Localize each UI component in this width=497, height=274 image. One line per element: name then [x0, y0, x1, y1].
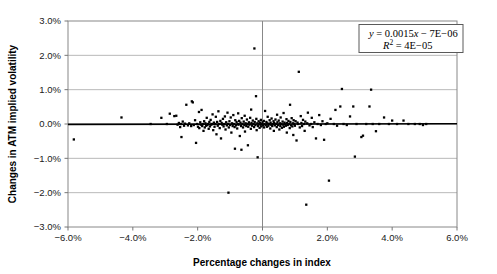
data-point: [354, 155, 356, 157]
data-point: [228, 126, 230, 128]
data-point: [180, 136, 182, 138]
data-point: [313, 121, 315, 123]
data-point: [349, 115, 351, 117]
data-point: [328, 180, 330, 182]
data-point: [211, 113, 213, 115]
data-point: [383, 116, 385, 118]
data-point: [312, 126, 314, 128]
legend-equation-line: y = 0.0015x − 7E−06: [368, 28, 458, 39]
data-point: [212, 129, 214, 131]
y-axis-title: Changes in ATM implied volatility: [7, 44, 18, 203]
data-point: [120, 116, 122, 118]
data-point: [255, 95, 257, 97]
data-point: [402, 119, 404, 121]
data-point: [217, 110, 219, 112]
data-point: [321, 120, 323, 122]
data-point: [236, 127, 238, 129]
data-point: [201, 125, 203, 127]
data-point: [215, 133, 217, 135]
data-point: [198, 111, 200, 113]
data-point: [209, 119, 211, 121]
y-tick-label: 2.0%: [39, 50, 61, 61]
data-point: [239, 135, 241, 137]
data-point: [199, 121, 201, 123]
data-point: [216, 121, 218, 123]
data-point: [305, 204, 307, 206]
data-point: [278, 119, 280, 121]
data-point: [336, 125, 338, 127]
data-point: [292, 134, 294, 136]
trendline: [68, 124, 457, 125]
data-point: [190, 125, 192, 127]
data-point: [339, 105, 341, 107]
data-point: [160, 117, 162, 119]
data-point: [318, 114, 320, 116]
x-tick-label: 6.0%: [446, 232, 468, 243]
data-point: [276, 126, 278, 128]
data-point: [291, 117, 293, 119]
data-point: [303, 130, 305, 132]
data-point: [341, 88, 343, 90]
data-point: [192, 101, 194, 103]
data-point: [246, 118, 248, 120]
data-point: [249, 117, 251, 119]
data-point: [220, 137, 222, 139]
legend-equation-mid: = 0.0015: [374, 28, 414, 39]
data-point: [244, 115, 246, 117]
data-point: [234, 148, 236, 150]
data-point: [299, 126, 301, 128]
data-point: [264, 110, 266, 112]
y-tick-label: 0.0%: [39, 118, 61, 129]
data-point: [247, 126, 249, 128]
data-point: [370, 89, 372, 91]
data-point: [185, 104, 187, 106]
data-point: [263, 126, 265, 128]
data-point: [242, 126, 244, 128]
data-point: [255, 118, 257, 120]
data-point: [278, 128, 280, 130]
x-tick-label: −4.0%: [119, 232, 147, 243]
data-point: [315, 137, 317, 139]
data-point: [289, 127, 291, 129]
data-point: [289, 104, 291, 106]
data-point: [248, 121, 250, 123]
data-point: [198, 127, 200, 129]
data-point: [263, 120, 265, 122]
data-point: [224, 128, 226, 130]
data-point: [222, 125, 224, 127]
data-point: [182, 120, 184, 122]
data-point: [368, 105, 370, 107]
data-point: [334, 109, 336, 111]
data-point: [195, 142, 197, 144]
data-point: [291, 125, 293, 127]
data-point: [208, 121, 210, 123]
legend-equation-tail: − 7E−06: [418, 28, 457, 39]
x-tick-label: −6.0%: [54, 232, 82, 243]
data-point: [271, 125, 273, 127]
data-point: [301, 125, 303, 127]
data-point: [300, 115, 302, 117]
data-point: [169, 113, 171, 115]
scatter-plot: 3.0%2.0%1.0%0.0%−1.0%−2.0%−3.0% −6.0%−4.…: [0, 0, 497, 274]
data-point: [276, 114, 278, 116]
data-point: [237, 112, 239, 114]
data-point: [260, 119, 262, 121]
x-tick-label: 4.0%: [381, 232, 403, 243]
data-point: [254, 121, 256, 123]
data-point: [391, 119, 393, 121]
data-point: [298, 71, 300, 73]
data-point: [274, 118, 276, 120]
data-point: [215, 116, 217, 118]
data-point: [362, 135, 364, 137]
chart-container: 3.0%2.0%1.0%0.0%−1.0%−2.0%−3.0% −6.0%−4.…: [0, 0, 497, 274]
data-point: [244, 130, 246, 132]
data-point: [273, 130, 275, 132]
data-point: [230, 131, 232, 133]
data-point: [256, 156, 258, 158]
data-point: [294, 125, 296, 127]
data-point: [307, 112, 309, 114]
y-tick-label: −2.0%: [34, 187, 62, 198]
data-point: [253, 47, 255, 49]
data-point: [241, 117, 243, 119]
data-point: [206, 117, 208, 119]
